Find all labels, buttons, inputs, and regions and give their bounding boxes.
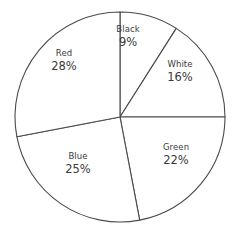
pie-slice-red[interactable] [15,12,120,137]
pie-chart-canvas [0,0,240,229]
pie-slice-group [15,12,225,222]
pie-chart-figure: Black9%White16%Green22%Blue25%Red28% [0,0,240,229]
